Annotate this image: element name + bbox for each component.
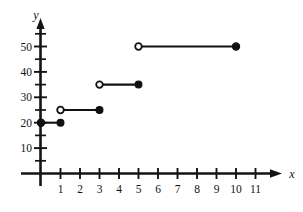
- open-point-1-25: [57, 107, 64, 114]
- y-tick-label-40: 40: [21, 66, 33, 78]
- step-series: [38, 43, 240, 126]
- x-axis-arrow-icon: [270, 169, 282, 178]
- y-tick-labels: 10 20 30 40 50: [21, 41, 33, 155]
- x-tick-label-3: 3: [97, 183, 103, 195]
- filled-point-1-20: [57, 119, 64, 126]
- y-tick-label-50: 50: [21, 41, 33, 53]
- x-tick-label-11: 11: [250, 183, 261, 195]
- x-tick-label-7: 7: [175, 183, 181, 195]
- open-point-3-35: [96, 81, 103, 88]
- x-tick-label-1: 1: [58, 183, 64, 195]
- x-axis-label: x: [288, 167, 295, 181]
- x-tick-label-9: 9: [214, 183, 220, 195]
- y-tick-label-10: 10: [21, 142, 33, 154]
- x-tick-label-2: 2: [77, 183, 83, 195]
- x-tick-label-6: 6: [155, 183, 161, 195]
- x-tick-labels: 1 2 3 4 5 6 7 8 9 10 11: [58, 183, 262, 195]
- y-axis-label: y: [32, 8, 39, 22]
- y-tick-label-20: 20: [21, 117, 33, 129]
- x-tick-label-5: 5: [136, 183, 142, 195]
- x-tick-label-10: 10: [230, 183, 242, 195]
- axes-group: [21, 18, 282, 186]
- filled-point-3-25: [96, 107, 103, 114]
- x-tick-label-4: 4: [116, 183, 122, 195]
- filled-point-5-35: [135, 81, 142, 88]
- chart-canvas: 10 20 30 40 50 1 2 3 4 5 6: [0, 0, 303, 212]
- filled-point-10-50: [232, 43, 239, 50]
- x-tick-label-8: 8: [194, 183, 200, 195]
- y-tick-label-30: 30: [21, 91, 33, 103]
- filled-point-0-20: [38, 120, 44, 126]
- open-point-5-50: [135, 43, 142, 50]
- step-function-chart: 10 20 30 40 50 1 2 3 4 5 6: [0, 0, 303, 212]
